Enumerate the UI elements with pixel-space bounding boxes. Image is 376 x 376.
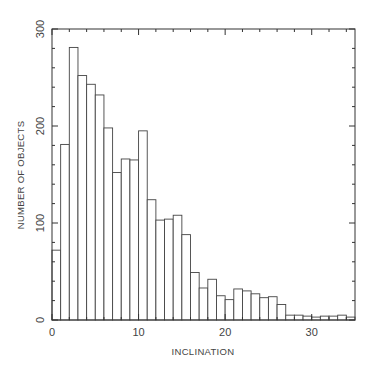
histogram-bar (87, 84, 96, 320)
x-tick-labels: 0102030 (49, 326, 318, 338)
histogram-bar (329, 316, 338, 320)
histogram-bar (165, 219, 174, 320)
histogram-bar (113, 173, 122, 320)
histogram-bar (156, 220, 165, 320)
histogram-bar (208, 279, 217, 320)
x-axis-title: INCLINATION (172, 346, 235, 357)
histogram-bar (242, 291, 251, 320)
histogram-bar (147, 200, 156, 320)
histogram-bar (139, 131, 148, 320)
y-tick-label: 0 (34, 317, 46, 323)
x-tick-label: 10 (132, 326, 144, 338)
histogram-bar (199, 288, 208, 320)
histogram-bar (182, 235, 191, 320)
histogram-bar (95, 95, 104, 320)
y-axis-title: NUMBER OF OBJECTS (15, 121, 26, 230)
histogram-bar (320, 316, 329, 320)
histogram-bars (52, 47, 355, 320)
x-tick-label: 30 (306, 326, 318, 338)
histogram-bar (121, 159, 130, 320)
y-tick-labels: 0100200300 (34, 20, 46, 323)
histogram-chart: 0102030 0100200300 INCLINATION NUMBER OF… (0, 0, 376, 376)
histogram-bar (104, 128, 113, 320)
x-tick-label: 0 (49, 326, 55, 338)
histogram-bar (173, 215, 182, 320)
histogram-bar (61, 144, 70, 320)
histogram-bar (294, 315, 303, 320)
x-tick-label: 20 (219, 326, 231, 338)
histogram-bar (216, 296, 225, 320)
y-tick-label: 300 (34, 20, 46, 38)
histogram-bar (130, 160, 139, 320)
histogram-bar (277, 304, 286, 320)
histogram-bar (251, 294, 260, 320)
y-tick-label: 200 (34, 117, 46, 135)
histogram-bar (78, 76, 87, 320)
histogram-bar (234, 289, 243, 320)
histogram-bar (260, 298, 269, 320)
histogram-bar (286, 315, 295, 320)
histogram-bar (52, 250, 61, 320)
y-tick-label: 100 (34, 214, 46, 232)
histogram-bar (338, 315, 347, 320)
histogram-bar (191, 272, 200, 320)
histogram-bar (69, 47, 78, 320)
histogram-bar (268, 297, 277, 320)
histogram-bar (303, 316, 312, 320)
histogram-bar (225, 300, 234, 320)
